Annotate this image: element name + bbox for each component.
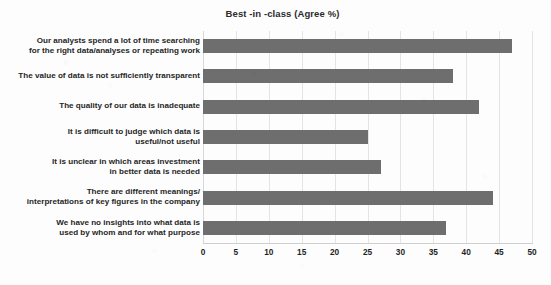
bar-row [203,31,532,61]
category-label-line: in better data is needed [3,167,200,177]
bar [203,191,493,205]
x-tick-label-45: 45 [494,247,503,257]
bar [203,39,512,53]
category-label-line: useful/not useful [3,137,200,147]
bar-row [203,183,532,213]
chart-title: Best -in -class (Agree %) [0,8,551,19]
category-label-line: It is unclear in which areas investment [3,157,200,167]
bar-row [203,213,532,243]
bar-row [203,61,532,91]
bar [203,160,381,174]
category-label-line: for the right data/analyses or repeating… [3,46,200,56]
x-tick-label-25: 25 [363,247,372,257]
x-tick-label-35: 35 [429,247,438,257]
category-label-line: It is difficult to judge which data is [3,127,200,137]
category-label-line: used by whom and for what purpose [3,228,200,238]
x-tick-label-5: 5 [234,247,239,257]
bar-row [203,152,532,182]
bar-chart: Best -in -class (Agree %) Our analysts s… [0,0,551,285]
category-label-line: The quality of our data is inadequate [3,101,200,111]
category-label: The quality of our data is inadequate [3,101,203,111]
x-tick-label-15: 15 [297,247,306,257]
category-label: It is unclear in which areas investmenti… [3,157,203,178]
category-label-line: We have no insights into what data is [3,218,200,228]
x-tick-label-20: 20 [330,247,339,257]
category-label: Our analysts spend a lot of time searchi… [3,36,203,57]
x-tick-label-40: 40 [462,247,471,257]
category-label: There are different meanings/interpretat… [3,187,203,208]
bar [203,69,453,83]
bar [203,130,368,144]
category-label-line: The value of data is not sufficiently tr… [3,71,200,81]
category-label-line: interpretations of key figures in the co… [3,197,200,207]
category-label-line: There are different meanings/ [3,187,200,197]
category-label: It is difficult to judge which data isus… [3,127,203,148]
bar [203,221,446,235]
bar-row [203,92,532,122]
category-axis-labels: Our analysts spend a lot of time searchi… [0,31,203,243]
x-tick-label-30: 30 [396,247,405,257]
x-tick-label-10: 10 [264,247,273,257]
category-label: We have no insights into what data isuse… [3,218,203,239]
x-axis-tick-labels: 05101520253035404550 [203,247,532,263]
bar [203,100,479,114]
x-tick-label-50: 50 [527,247,536,257]
gridline-50 [532,31,533,243]
x-tick-label-0: 0 [201,247,206,257]
category-label-line: Our analysts spend a lot of time searchi… [3,36,200,46]
chart-title-text: Best -in -class (Agree %) [226,8,340,19]
category-label: The value of data is not sufficiently tr… [3,71,203,81]
x-axis-line [203,243,533,244]
plot-area [203,31,532,243]
bar-row [203,122,532,152]
